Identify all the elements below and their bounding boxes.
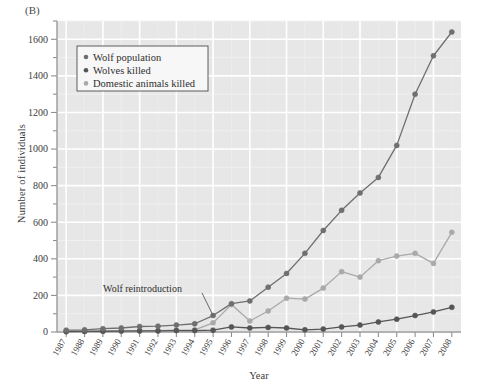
data-point xyxy=(119,325,124,330)
data-point xyxy=(413,313,418,318)
x-tick-label: 2005 xyxy=(381,337,399,358)
x-tick-label: 2006 xyxy=(399,337,417,358)
y-tick-label: 200 xyxy=(33,290,48,301)
x-tick-label: 2007 xyxy=(418,337,436,358)
data-point xyxy=(284,296,289,301)
data-point xyxy=(247,325,252,330)
x-tick-label: 2003 xyxy=(344,337,362,358)
x-tick-label: 1996 xyxy=(216,337,234,358)
data-point xyxy=(339,208,344,213)
data-point xyxy=(413,251,418,256)
data-point xyxy=(394,254,399,259)
data-point xyxy=(449,305,454,310)
y-tick-label: 1200 xyxy=(28,107,48,118)
data-point xyxy=(266,308,271,313)
data-point xyxy=(358,190,363,195)
data-point xyxy=(229,324,234,329)
x-tick-label: 2001 xyxy=(307,337,325,358)
data-point xyxy=(431,53,436,58)
y-tick-label: 1600 xyxy=(28,34,48,45)
x-tick-label: 1995 xyxy=(197,337,215,358)
x-tick-label: 1999 xyxy=(271,337,289,358)
x-tick-label: 2004 xyxy=(362,337,380,358)
x-tick-label: 1998 xyxy=(252,337,270,358)
y-tick-label: 400 xyxy=(33,253,48,264)
data-point xyxy=(192,328,197,333)
data-point xyxy=(431,309,436,314)
data-point xyxy=(376,258,381,263)
data-point xyxy=(284,325,289,330)
x-tick-label: 2008 xyxy=(436,337,454,358)
data-point xyxy=(174,323,179,328)
data-point xyxy=(156,324,161,329)
wolf-reintroduction-annotation: Wolf reintroduction xyxy=(103,283,182,294)
data-point xyxy=(321,286,326,291)
y-tick-label: 600 xyxy=(33,217,48,228)
data-point xyxy=(211,320,216,325)
figure-panel: (B) Number of individuals Year 020040060… xyxy=(0,0,483,387)
panel-label: (B) xyxy=(25,4,40,16)
data-point xyxy=(266,325,271,330)
data-point xyxy=(358,275,363,280)
y-tick-label: 0 xyxy=(43,326,48,337)
data-point xyxy=(321,327,326,332)
data-point xyxy=(339,269,344,274)
data-point xyxy=(174,328,179,333)
x-tick-label: 1993 xyxy=(160,337,178,358)
data-point xyxy=(376,319,381,324)
x-tick-label: 1991 xyxy=(124,337,142,358)
data-point xyxy=(100,326,105,331)
x-axis-tick-labels: 1987198819891990199119921993199419951996… xyxy=(50,337,454,358)
x-tick-label: 1989 xyxy=(87,337,105,358)
x-tick-label: 1990 xyxy=(105,337,123,358)
x-tick-label: 1988 xyxy=(69,337,87,358)
data-point xyxy=(229,301,234,306)
data-point xyxy=(339,324,344,329)
legend-marker xyxy=(84,55,89,60)
chart-legend: Wolf populationWolves killedDomestic ani… xyxy=(77,46,208,91)
data-point xyxy=(284,271,289,276)
y-axis-ticks: 02004006008001000120014001600 xyxy=(28,21,57,337)
data-point xyxy=(192,321,197,326)
data-point xyxy=(82,327,87,332)
data-point xyxy=(413,92,418,97)
legend-label: Wolves killed xyxy=(93,65,152,76)
data-point xyxy=(449,230,454,235)
x-tick-label: 2000 xyxy=(289,337,307,358)
y-axis-label: Number of individuals xyxy=(16,89,27,259)
data-point xyxy=(137,324,142,329)
x-tick-label: 1987 xyxy=(50,337,68,358)
data-point xyxy=(302,327,307,332)
x-tick-label: 2002 xyxy=(326,337,344,358)
data-point xyxy=(321,228,326,233)
data-point xyxy=(394,143,399,148)
x-tick-label: 1992 xyxy=(142,337,160,358)
data-point xyxy=(302,297,307,302)
data-point xyxy=(247,298,252,303)
data-point xyxy=(211,328,216,333)
data-point xyxy=(302,251,307,256)
y-tick-label: 800 xyxy=(33,180,48,191)
data-point xyxy=(64,328,69,333)
y-tick-label: 1400 xyxy=(28,70,48,81)
data-point xyxy=(156,328,161,333)
legend-label: Wolf population xyxy=(93,52,162,63)
legend-marker xyxy=(84,81,89,86)
data-point xyxy=(266,285,271,290)
data-point xyxy=(358,323,363,328)
data-point xyxy=(247,319,252,324)
legend-label: Domestic animals killed xyxy=(93,78,196,89)
data-point xyxy=(376,175,381,180)
line-chart: 02004006008001000120014001600 Wolf reint… xyxy=(0,0,483,387)
data-point xyxy=(449,29,454,34)
data-point xyxy=(394,317,399,322)
legend-marker xyxy=(84,68,89,73)
y-tick-label: 1000 xyxy=(28,143,48,154)
data-point xyxy=(431,261,436,266)
x-tick-label: 1997 xyxy=(234,337,252,358)
x-axis-label: Year xyxy=(57,370,461,381)
x-tick-label: 1994 xyxy=(179,337,197,358)
